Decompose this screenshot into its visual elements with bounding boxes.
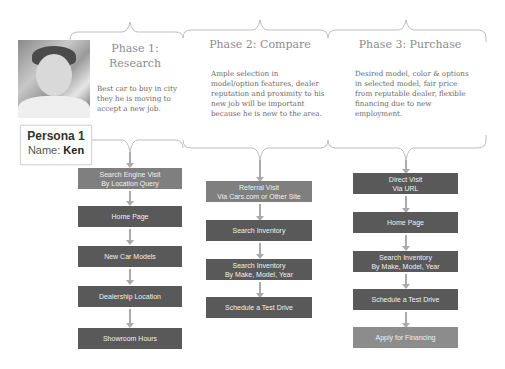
step-label: Home Page (112, 212, 149, 221)
persona-title: Persona 1 (21, 129, 91, 143)
step-sublabel: By Location Query (100, 179, 161, 188)
step-sublabel: By Make, Model, Year (225, 270, 293, 279)
step-label: Direct Visit (389, 175, 422, 184)
step-label: Search Inventory (225, 261, 293, 270)
arrow-down-icon (259, 204, 261, 217)
arrow-down-icon (129, 309, 131, 324)
arrow-down-icon (405, 312, 407, 324)
step-sublabel: Via URL (389, 184, 422, 193)
arrow-down-icon (129, 229, 131, 241)
phase-1-description: Best car to buy in city they he is movin… (97, 84, 179, 114)
phase-1-step-3: New Car Models (78, 246, 182, 267)
step-label: Schedule a Test Drive (225, 303, 293, 312)
phase-2-title: Phase 2: Compare (195, 38, 325, 51)
step-label: Referral Visit (217, 183, 301, 192)
arrow-down-icon (405, 196, 407, 209)
arrow-down-icon (405, 235, 407, 247)
step-label: Apply for Financing (376, 333, 436, 342)
phase-2-step-4: Schedule a Test Drive (206, 297, 312, 318)
step-label: Schedule a Test Drive (372, 295, 440, 304)
step-sublabel: Via Cars.com or Other Site (217, 192, 301, 201)
phase-3-step-3: Search InventoryBy Make, Model, Year (353, 251, 458, 272)
arrow-down-icon (129, 269, 131, 281)
phase-3-step-4: Schedule a Test Drive (353, 289, 458, 310)
step-label: Dealership Location (99, 292, 161, 301)
phase-3-title: Phase 3: Purchase (340, 38, 480, 51)
arrow-down-icon (259, 243, 261, 255)
phase-2-step-3: Search InventoryBy Make, Model, Year (206, 259, 312, 280)
phase-2-step-2: Search Inventory (206, 220, 312, 241)
step-label: Search Inventory (233, 226, 286, 235)
phase-1-step-5: Showroom Hours (78, 328, 182, 349)
persona-name-row: Name: Ken (21, 144, 91, 156)
phase-3-step-1: Direct VisitVia URL (353, 173, 458, 194)
photo-face (36, 54, 72, 96)
persona-name-label: Name: (28, 144, 60, 156)
phase-1-step-1: Search Engine VisitBy Location Query (78, 168, 182, 189)
phase-1-title-line2: Research (95, 57, 175, 70)
phase-3-description: Desired model, color & options in select… (355, 69, 475, 119)
step-label: Search Engine Visit (100, 170, 161, 179)
arrow-down-icon (259, 282, 261, 294)
phase-1-step-2: Home Page (78, 206, 182, 227)
phase-2-step-1: Referral VisitVia Cars.com or Other Site (206, 181, 312, 202)
phase-1-title-line1: Phase 1: (95, 42, 175, 55)
phase-1-step-4: Dealership Location (78, 286, 182, 307)
persona-photo (18, 40, 90, 118)
arrow-down-icon (259, 160, 261, 178)
step-label: Showroom Hours (103, 334, 157, 343)
phase-3-step-2: Home Page (353, 212, 458, 233)
persona-card: Persona 1 Name: Ken (20, 125, 92, 165)
phase-2-description: Ample selection in model/option features… (211, 69, 326, 119)
step-label: Search Inventory (371, 253, 439, 262)
step-sublabel: By Make, Model, Year (371, 262, 439, 271)
step-label: New Car Models (104, 252, 156, 261)
arrow-down-icon (129, 191, 131, 202)
step-label: Home Page (387, 218, 424, 227)
photo-shirt (18, 96, 90, 118)
persona-name: Ken (63, 144, 84, 156)
arrow-down-icon (405, 274, 407, 285)
arrow-down-icon (405, 160, 407, 170)
phase-3-step-5: Apply for Financing (353, 327, 458, 348)
arrow-down-icon (129, 152, 131, 164)
phase-1-title: Phase 1: Research (95, 42, 175, 70)
